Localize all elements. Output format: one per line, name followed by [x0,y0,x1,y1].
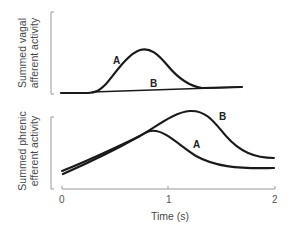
x-axis-label: Time (s) [151,210,189,222]
bottom-y-axis-label: Summed phrenic efferent activity [16,106,40,196]
top-label-a: A [113,55,120,66]
x-tick-0: 0 [59,194,65,205]
bottom-curve-b [62,111,274,171]
top-y-label-line1: Summed vagal [16,11,28,95]
bottom-y-label-line1: Summed phrenic [16,106,28,196]
bottom-y-label-line2: efferent activity [28,106,40,196]
top-y-label-line2: afferent activity [28,11,40,95]
top-y-axis [51,12,54,94]
x-axis [62,186,275,189]
bottom-curve-a [63,131,274,174]
top-label-b: B [150,78,157,89]
bottom-label-b: B [219,111,226,122]
bottom-y-axis [51,117,54,189]
x-tick-1: 1 [166,194,172,205]
x-tick-2: 2 [272,194,278,205]
top-y-axis-label: Summed vagal afferent activity [16,11,40,95]
top-line-b [92,87,242,92]
bottom-label-a: A [193,139,200,150]
figure-canvas [0,0,294,230]
